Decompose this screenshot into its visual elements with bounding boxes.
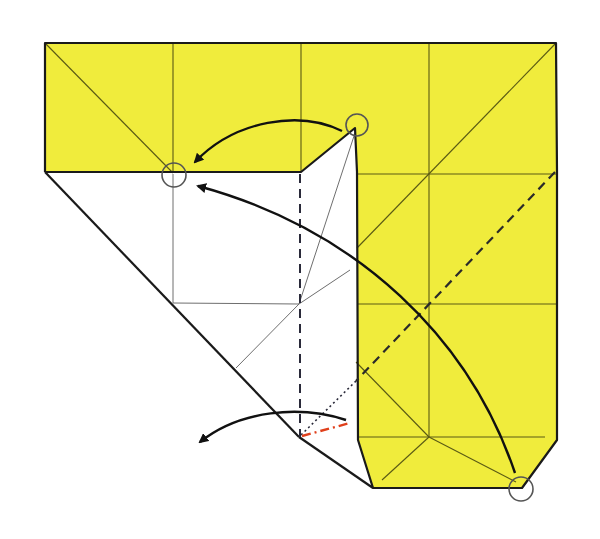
diagram-canvas	[0, 0, 600, 539]
yellow-right-panel	[357, 172, 557, 488]
origami-diagram: origami-fold-step	[0, 0, 600, 539]
